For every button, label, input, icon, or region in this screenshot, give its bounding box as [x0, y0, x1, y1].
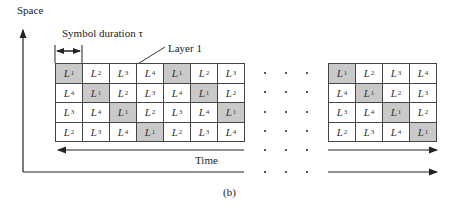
- layer-cell: L4: [410, 64, 437, 84]
- layer-cell: L2: [164, 123, 191, 143]
- layer-cell: L3: [383, 64, 410, 84]
- ellipsis-dot: [285, 171, 287, 173]
- layer-cell: L1: [356, 84, 383, 104]
- left-layer-grid: L1L2L3L4L1L2L3L4L1L2L3L4L1L2L3L4L1L2L3L4…: [55, 63, 245, 142]
- ellipsis-dot: [285, 72, 287, 74]
- layer-cell: L1: [83, 84, 110, 104]
- layer-cell: L4: [83, 103, 110, 123]
- layer-cell: L2: [56, 123, 83, 143]
- layer-cell: L1: [329, 64, 356, 84]
- x-axis-label: Time: [195, 154, 218, 166]
- layer-cell: L2: [191, 64, 218, 84]
- layer-cell: L4: [383, 123, 410, 143]
- layer-cell: L3: [329, 103, 356, 123]
- layer-cell: L1: [137, 123, 164, 143]
- figure-caption: (b): [223, 186, 236, 198]
- layer-cell: L3: [356, 123, 383, 143]
- layer-cell: L4: [110, 123, 137, 143]
- layer-cell: L1: [383, 103, 410, 123]
- ellipsis-dot: [264, 130, 266, 132]
- layer-cell: L1: [218, 103, 245, 123]
- ellipsis-dot: [264, 72, 266, 74]
- layer-cell: L3: [218, 64, 245, 84]
- ellipsis-dot: [285, 111, 287, 113]
- layer-cell: L2: [83, 64, 110, 84]
- layer-cell: L3: [137, 84, 164, 104]
- layer-cell: L3: [164, 103, 191, 123]
- layer-cell: L2: [410, 103, 437, 123]
- layer-cell: L1: [110, 103, 137, 123]
- right-layer-grid: L1L2L3L4L4L1L2L3L3L4L1L2L2L3L4L1: [328, 63, 437, 142]
- layer-cell: L4: [164, 84, 191, 104]
- layer-cell: L3: [110, 64, 137, 84]
- ellipsis-dot: [285, 149, 287, 151]
- layer-cell: L4: [356, 103, 383, 123]
- y-axis-label: Space: [17, 4, 43, 16]
- layer-cell: L4: [329, 84, 356, 104]
- layer-label: Layer 1: [168, 42, 202, 54]
- symbol-duration-label: Symbol duration τ: [62, 27, 143, 39]
- layer-cell: L3: [56, 103, 83, 123]
- layer-cell: L1: [410, 123, 437, 143]
- ellipsis-dot: [306, 91, 308, 93]
- layer-cell: L2: [356, 64, 383, 84]
- ellipsis-dot: [306, 171, 308, 173]
- layer-cell: L2: [110, 84, 137, 104]
- layer-cell: L3: [83, 123, 110, 143]
- ellipsis-dot: [306, 111, 308, 113]
- ellipsis-dot: [306, 149, 308, 151]
- ellipsis-dot: [285, 91, 287, 93]
- ellipsis-dot: [306, 72, 308, 74]
- ellipsis-dot: [264, 111, 266, 113]
- layer-cell: L1: [164, 64, 191, 84]
- layer-cell: L2: [218, 84, 245, 104]
- layer-cell: L3: [410, 84, 437, 104]
- ellipsis-dot: [264, 149, 266, 151]
- layer-cell: L4: [218, 123, 245, 143]
- layer-cell: L4: [56, 84, 83, 104]
- ellipsis-dot: [285, 130, 287, 132]
- layer-cell: L2: [137, 103, 164, 123]
- layer-cell: L2: [383, 84, 410, 104]
- layer-cell: L3: [191, 123, 218, 143]
- layer-cell: L1: [191, 84, 218, 104]
- ellipsis-dot: [306, 130, 308, 132]
- ellipsis-dot: [264, 171, 266, 173]
- layer-cell: L2: [329, 123, 356, 143]
- ellipsis-dot: [264, 91, 266, 93]
- layer-cell: L1: [56, 64, 83, 84]
- layer-cell: L4: [137, 64, 164, 84]
- layer-cell: L4: [191, 103, 218, 123]
